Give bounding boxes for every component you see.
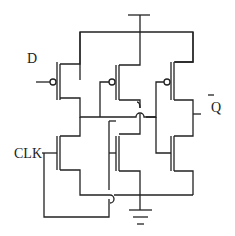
- ground-symbol: [129, 195, 152, 224]
- crossover-hop: [110, 195, 114, 203]
- crossover-wire: [100, 113, 156, 117]
- mid-wire: [119, 121, 140, 134]
- pmos-p2: [100, 32, 140, 117]
- vdd-rail: [80, 32, 193, 80]
- nmos-n2: [109, 121, 140, 195]
- nmos-n1: [42, 117, 110, 217]
- circuit-schematic: D CLK Q: [0, 0, 235, 236]
- vdd-symbol: [128, 15, 150, 32]
- label-q: Q: [211, 100, 221, 115]
- pmos-p3: [146, 32, 201, 124]
- label-clk: CLK: [14, 146, 42, 161]
- nmos-n3: [156, 117, 193, 195]
- pmos-p1: [36, 32, 100, 117]
- label-d: D: [27, 51, 37, 66]
